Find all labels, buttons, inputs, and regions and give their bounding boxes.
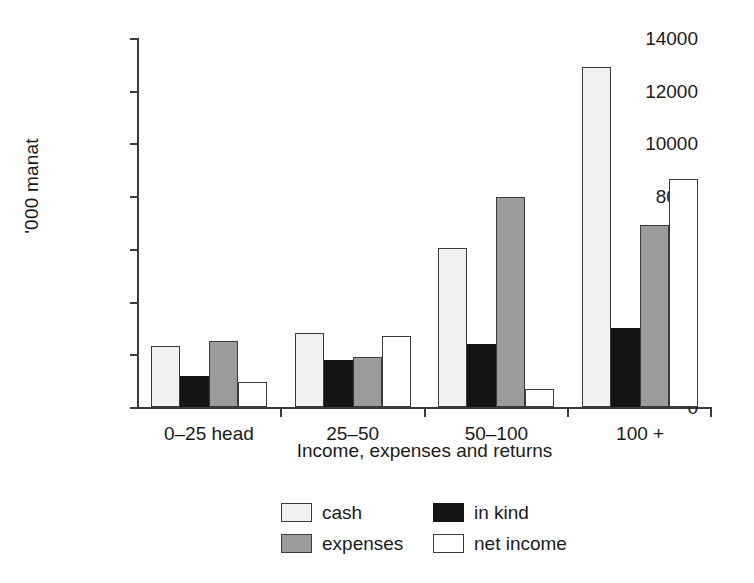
y-axis-tick — [130, 38, 139, 40]
y-axis-tick-label: 14000 — [588, 29, 698, 48]
bar-in-kind-100- — [611, 328, 640, 407]
chart-legend: cash in kind expenses net income — [281, 497, 611, 559]
legend-row: expenses net income — [281, 528, 611, 559]
legend-label-in-kind: in kind — [474, 502, 529, 524]
legend-swatch-cash-icon — [281, 503, 312, 522]
legend-label-net-income: net income — [474, 533, 567, 555]
bar-expenses-0-25-head — [209, 341, 238, 407]
bar-cash-0-25-head — [151, 346, 180, 407]
bar-net-income-0-25-head — [238, 382, 267, 407]
y-axis-tick — [130, 143, 139, 145]
legend-swatch-expenses-icon — [281, 534, 312, 553]
bar-expenses-50-100 — [496, 197, 525, 407]
y-axis-tick — [130, 302, 139, 304]
bar-expenses-100- — [640, 225, 669, 407]
legend-item-net-income[interactable]: net income — [433, 533, 611, 555]
y-axis-tick — [130, 249, 139, 251]
y-axis-tick — [130, 407, 139, 409]
bar-in-kind-25-50 — [324, 360, 353, 407]
bar-cash-100- — [582, 67, 611, 407]
bar-in-kind-0-25-head — [180, 376, 209, 407]
plot-area: 02000400060008000100001200014000 0–25 he… — [137, 39, 712, 408]
legend-swatch-net-income-icon — [433, 534, 464, 553]
y-axis-tick — [130, 354, 139, 356]
y-axis-line — [137, 39, 139, 408]
x-axis-tick — [567, 408, 569, 417]
legend-label-expenses: expenses — [322, 533, 403, 555]
y-axis-tick — [130, 196, 139, 198]
x-axis-tick — [710, 408, 712, 417]
legend-swatch-in-kind-icon — [433, 503, 464, 522]
legend-item-in-kind[interactable]: in kind — [433, 502, 611, 524]
legend-item-cash[interactable]: cash — [281, 502, 433, 524]
legend-row: cash in kind — [281, 497, 611, 528]
y-axis-label: '000 manat — [21, 106, 43, 266]
bar-net-income-100- — [669, 179, 698, 407]
legend-label-cash: cash — [322, 502, 362, 524]
bar-cash-25-50 — [295, 333, 324, 407]
bar-expenses-25-50 — [353, 357, 382, 407]
bar-in-kind-50-100 — [467, 344, 496, 407]
bar-chart-figure: '000 manat 02000400060008000100001200014… — [0, 0, 754, 583]
bar-net-income-50-100 — [525, 389, 554, 407]
x-axis-tick — [280, 408, 282, 417]
legend-item-expenses[interactable]: expenses — [281, 533, 433, 555]
x-axis-label: Income, expenses and returns — [137, 440, 712, 462]
bar-cash-50-100 — [438, 248, 467, 407]
bar-net-income-25-50 — [382, 336, 411, 407]
x-axis-tick — [424, 408, 426, 417]
y-axis-tick — [130, 91, 139, 93]
